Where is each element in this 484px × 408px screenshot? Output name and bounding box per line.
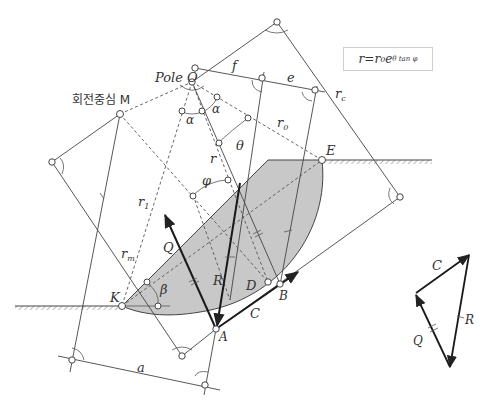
polygon-R [450,255,469,367]
label-phi: φ [202,173,212,188]
label-rotation-center: 회전중심 M [72,93,130,107]
label-E: E [325,143,336,158]
label-C: C [250,306,260,321]
polygon-C [416,255,469,293]
label-pole: Pole O [154,70,198,85]
label-e: e [287,70,295,85]
formula-box: r = r0eθ tan φ [343,47,433,71]
label-alpha-right: α [212,102,220,116]
label-rc: rc [335,86,346,103]
label-Q: Q [163,240,174,255]
polygon-Q [416,295,450,367]
label-D: D [245,278,257,293]
force-polygon [416,255,469,367]
polygon-label-R: R [464,313,474,327]
formula-base: e [385,52,392,66]
polygon-label-Q: Q [413,334,423,348]
label-beta: β [159,282,168,297]
label-theta: θ [236,138,244,153]
label-r1: r1 [138,194,149,211]
label-a: a [137,360,145,375]
formula-exp: θ tan φ [392,55,417,63]
label-rm: rm [121,246,135,263]
label-B: B [278,289,288,303]
label-r0: r0 [277,115,288,132]
label-r: r [210,151,217,166]
label-A: A [218,330,228,344]
formula-eq: = [364,52,374,66]
polygon-labels: C R Q [413,258,474,348]
label-R: R [212,273,223,288]
label-f: f [231,58,239,73]
label-alpha-left: α [186,113,194,127]
label-K: K [109,290,121,305]
polygon-label-C: C [432,258,442,273]
